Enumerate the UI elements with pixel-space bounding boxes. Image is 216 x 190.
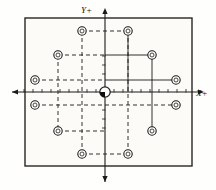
- hole-outer-circle: [31, 76, 39, 84]
- y-axis-arrow-down: [102, 176, 107, 182]
- y-axis-label: Y+: [81, 5, 92, 15]
- hole-top-left-inner: [78, 27, 86, 35]
- hole-outer-circle: [148, 51, 156, 59]
- hole-lower-right-outer: [172, 101, 180, 109]
- hole-upper-left-mid: [54, 51, 62, 59]
- x-axis-label: X+: [195, 88, 208, 98]
- coordinate-hole-pattern-diagram: X+Y+: [0, 0, 216, 190]
- hole-outer-circle: [148, 127, 156, 135]
- x-axis-arrow-left: [12, 89, 18, 94]
- hole-outer-circle: [31, 101, 39, 109]
- hole-outer-circle: [78, 27, 86, 35]
- hole-outer-circle: [172, 76, 180, 84]
- hole-outer-circle: [172, 101, 180, 109]
- origin-datum-marker: [100, 87, 110, 97]
- hole-bottom-left-inner: [78, 150, 86, 158]
- hole-upper-right-mid: [148, 51, 156, 59]
- hole-bottom-right-inner: [124, 150, 132, 158]
- hole-outer-circle: [54, 127, 62, 135]
- hole-lower-left-outer: [31, 101, 39, 109]
- hole-lower-right-mid: [148, 127, 156, 135]
- hole-upper-right-outer: [172, 76, 180, 84]
- hole-lower-left-mid: [54, 127, 62, 135]
- hole-top-right-inner: [124, 27, 132, 35]
- hole-outer-circle: [124, 27, 132, 35]
- y-axis-arrow-up: [102, 8, 107, 14]
- hole-outer-circle: [124, 150, 132, 158]
- hole-outer-circle: [54, 51, 62, 59]
- hole-upper-left-outer: [31, 76, 39, 84]
- diagram-canvas: X+Y+: [0, 0, 216, 190]
- hole-outer-circle: [78, 150, 86, 158]
